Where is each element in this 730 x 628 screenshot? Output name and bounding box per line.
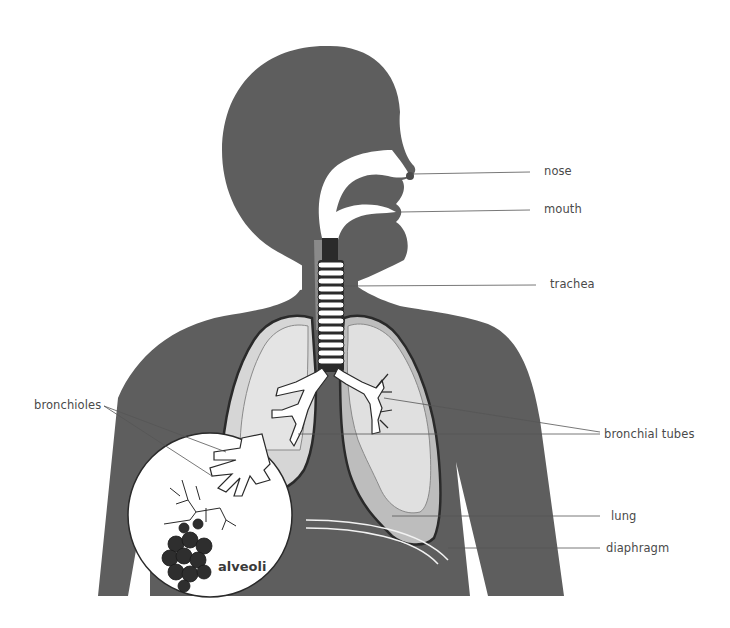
nose-leader: [412, 172, 530, 174]
bronchioles-label: bronchioles: [34, 398, 101, 412]
diagram-artwork: [0, 0, 730, 628]
trachea: [318, 260, 344, 372]
trachea-label: trachea: [550, 277, 595, 291]
lung-label: lung: [611, 509, 636, 523]
nose-label: nose: [544, 164, 572, 178]
trachea-leader: [344, 285, 536, 286]
pharynx: [322, 238, 338, 262]
diaphragm-label: diaphragm: [606, 541, 669, 555]
mouth-leader: [400, 210, 530, 212]
bronchial-tubes-label: bronchial tubes: [604, 427, 694, 441]
respiratory-system-diagram: nose mouth trachea bronchial tubes bronc…: [0, 0, 730, 628]
alveoli-label: alveoli: [218, 559, 266, 574]
magnified-view: [128, 433, 292, 597]
mouth-label: mouth: [544, 202, 582, 216]
